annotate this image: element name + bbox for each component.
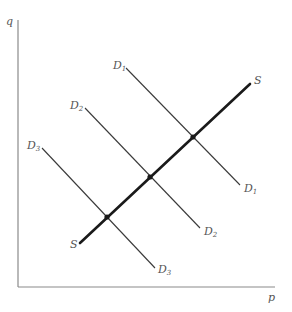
y-axis-label: q	[6, 15, 13, 28]
equilibrium-point-2	[147, 174, 152, 179]
demand-curve-1	[126, 68, 240, 185]
demand-1-label-end: D1	[243, 182, 257, 196]
supply-label-top: S	[254, 74, 262, 87]
demand-3-label-start: D3	[26, 139, 41, 153]
equilibrium-point-1	[190, 134, 195, 139]
x-axis-label: p	[268, 291, 275, 304]
demand-3-label-end: D3	[157, 263, 172, 277]
equilibrium-point-3	[104, 214, 109, 219]
supply-label-bottom: S	[70, 238, 78, 251]
demand-1-label-start: D1	[112, 59, 126, 73]
supply-demand-diagram: q p S S D1 D2 D3 D1 D2 D3	[0, 0, 292, 312]
demand-2-label-end: D2	[203, 225, 218, 239]
demand-curve-3	[42, 148, 155, 268]
demand-2-label-start: D2	[69, 99, 84, 113]
